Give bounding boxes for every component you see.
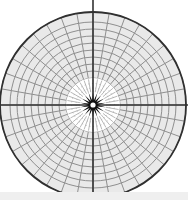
polar-grid-chart: [0, 0, 188, 200]
inner-arc-tick-13-0: [81, 92, 82, 93]
inner-arc-tick-22-0: [80, 116, 81, 117]
inner-arc-tick-32-0: [106, 115, 107, 116]
inner-arc-tick-4-0: [105, 93, 106, 94]
inner-arc-tick-30-1: [104, 123, 105, 124]
inner-arc-tick-5-0: [103, 91, 104, 92]
inner-arc-tick-12-1: [81, 86, 82, 87]
inner-arc-tick-23-0: [82, 118, 83, 119]
bottom-cutoff-band: [0, 192, 188, 200]
center-rosette-hole: [90, 102, 95, 107]
inner-arc-tick-3-1: [111, 93, 112, 94]
inner-arc-tick-31-0: [104, 117, 105, 118]
inner-arc-tick-21-1: [74, 116, 75, 117]
figure-root: [0, 0, 188, 200]
inner-arc-tick-14-0: [79, 94, 80, 95]
